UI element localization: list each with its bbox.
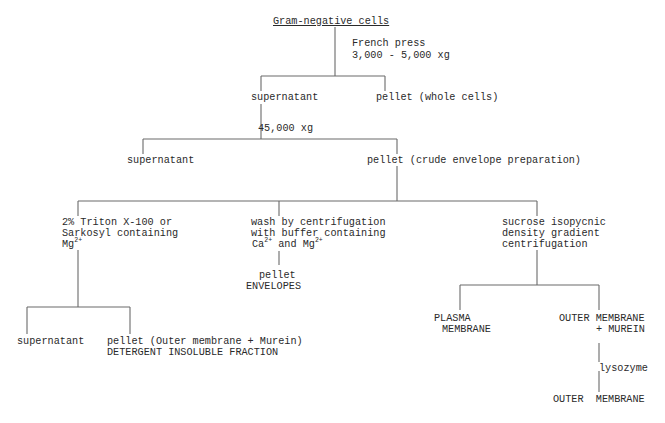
supernatant-1: supernatant [251,92,318,103]
step-french-press-force: 3,000 - 5,000 xg [352,50,450,61]
supernatant-detergent: supernatant [17,336,84,347]
branch-wash-line3: Ca2+ and Mg2+ [252,239,323,250]
step-lysozyme: lysozyme [599,363,648,374]
step-french-press: French press [352,38,425,49]
outer-membrane-murein-line2: + MUREIN [596,324,645,335]
step-45000xg: 45,000 xg [258,123,313,134]
branch-detergent-line3: Mg2+ [62,239,82,250]
pellet-whole-cells: pellet (whole cells) [376,92,498,103]
pellet-envelopes-line1: pellet [259,270,296,281]
plasma-membrane-line2: MEMBRANE [442,324,491,335]
branch-sucrose-line2: density gradient [502,228,600,239]
detergent-insoluble-fraction: DETERGENT INSOLUBLE FRACTION [107,347,278,358]
branch-sucrose-line3: centrifugation [502,239,588,250]
outer-membrane-final: OUTER MEMBRANE [553,394,645,405]
branch-detergent-line1: 2% Triton X-100 or [62,217,172,228]
outer-membrane-murein-line1: OUTER MEMBRANE [559,313,645,324]
connector-lines [0,0,665,423]
plasma-membrane-line1: PLASMA [434,313,471,324]
branch-sucrose-line1: sucrose isopycnic [502,217,606,228]
root-node-label: Gram-negative cells [273,16,389,27]
pellet-outer-membrane-murein: pellet (Outer membrane + Murein) [107,336,303,347]
supernatant-2: supernatant [127,155,194,166]
branch-wash-line1: wash by centrifugation [251,217,386,228]
pellet-envelopes-line2: ENVELOPES [246,281,301,292]
pellet-crude-envelope: pellet (crude envelope preparation) [367,155,581,166]
